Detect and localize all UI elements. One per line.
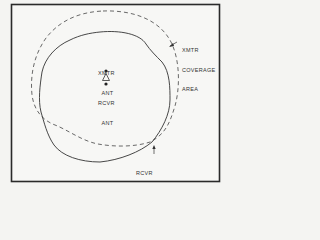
rcvr-coverage-label: RCVR COVERAGE AREA (136, 157, 170, 189)
rcvr-antenna-label-line2: ANT (98, 120, 115, 127)
xmtr-coverage-label-line2: COVERAGE (182, 67, 216, 74)
xmtr-coverage-label-line1: XMTR (182, 47, 216, 54)
xmtr-coverage-label-line3: AREA (182, 86, 216, 93)
rcvr-antenna-label: RCVR ANT (98, 87, 115, 139)
rcvr-antenna-label-line1: RCVR (98, 100, 115, 107)
xmtr-coverage-label: XMTR COVERAGE AREA (182, 34, 216, 106)
rcvr-coverage-label-line1: RCVR (136, 170, 170, 177)
xmtr-antenna-label-line1: XMTR (98, 70, 115, 77)
